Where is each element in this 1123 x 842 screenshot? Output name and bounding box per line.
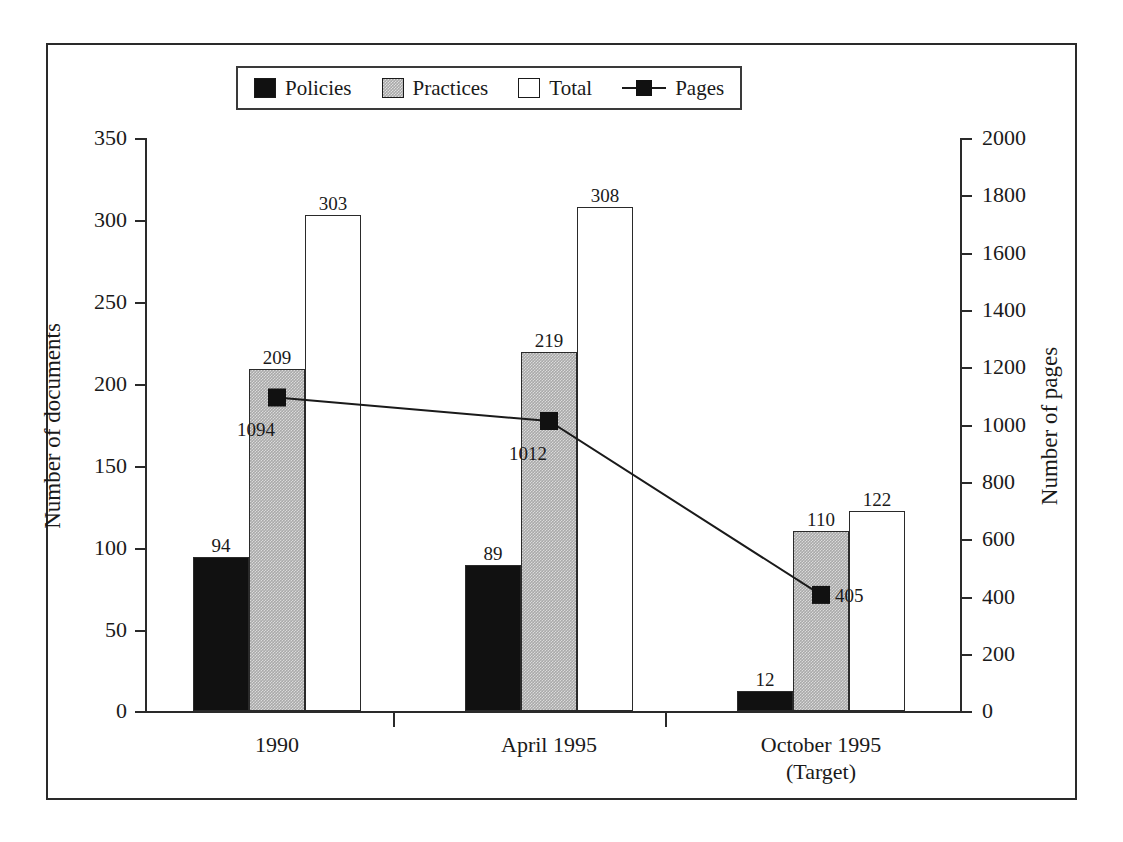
- right-tick-label-1400: 1400: [982, 299, 1026, 321]
- right-tick-0: [960, 711, 972, 713]
- right-tick-label-1000: 1000: [982, 414, 1026, 436]
- left-axis-line: [145, 138, 147, 713]
- right-tick-label-1800: 1800: [982, 184, 1026, 206]
- x-tick-divider-1: [393, 713, 395, 727]
- plot-area: 350 300 250 200 150 100 50 0 2000 1800 1…: [145, 138, 962, 713]
- left-tick-200: [135, 384, 147, 386]
- left-tick-150: [135, 466, 147, 468]
- left-tick-label-250: 250: [94, 291, 127, 313]
- right-tick-1800: [960, 195, 972, 197]
- left-tick-label-50: 50: [105, 619, 127, 641]
- bar-policies-october-1995: [737, 691, 793, 711]
- chart-figure: Policies Practices Total Pages 350 300 2…: [0, 0, 1123, 842]
- left-tick-250: [135, 302, 147, 304]
- policies-swatch-icon: [254, 78, 276, 98]
- bar-practices-october-1995: [793, 531, 849, 711]
- right-tick-2000: [960, 138, 972, 140]
- right-tick-label-1600: 1600: [982, 242, 1026, 264]
- x-category-october-1995: October 1995 (Target): [761, 732, 881, 786]
- legend-item-total: Total: [518, 78, 592, 99]
- pages-label-april-1995: 1012: [509, 444, 547, 463]
- left-tick-label-200: 200: [94, 373, 127, 395]
- right-tick-1600: [960, 253, 972, 255]
- right-tick-1400: [960, 310, 972, 312]
- left-tick-50: [135, 630, 147, 632]
- legend-item-policies: Policies: [254, 78, 352, 99]
- right-tick-label-400: 400: [982, 586, 1015, 608]
- left-tick-0: [135, 711, 147, 713]
- pages-line-marker-icon: [622, 78, 666, 98]
- legend-item-practices: Practices: [382, 78, 489, 99]
- practices-swatch-icon: [382, 78, 404, 98]
- bar-total-october-1995: [849, 511, 905, 711]
- right-tick-label-0: 0: [982, 700, 993, 722]
- x-category-april-1995: April 1995: [501, 732, 597, 759]
- x-axis-line: [145, 711, 962, 713]
- x-tick-divider-2: [665, 713, 667, 727]
- x-category-sublabel-october-1995: (Target): [761, 759, 881, 786]
- bar-total-1990: [305, 215, 361, 711]
- right-tick-label-2000: 2000: [982, 127, 1026, 149]
- right-tick-1000: [960, 425, 972, 427]
- legend-label-total: Total: [549, 78, 592, 99]
- bar-policies-april-1995: [465, 565, 521, 711]
- legend-label-policies: Policies: [285, 78, 352, 99]
- bar-label-practices-april-1995: 219: [535, 331, 564, 350]
- right-axis-title: Number of pages: [1037, 346, 1063, 504]
- bar-label-total-1990: 303: [319, 194, 348, 213]
- right-tick-label-200: 200: [982, 643, 1015, 665]
- x-category-label-october-1995: October 1995: [761, 732, 881, 757]
- right-tick-label-800: 800: [982, 471, 1015, 493]
- right-tick-800: [960, 482, 972, 484]
- x-category-label-april-1995: April 1995: [501, 732, 597, 757]
- right-tick-1200: [960, 367, 972, 369]
- bar-total-april-1995: [577, 207, 633, 711]
- left-tick-label-350: 350: [94, 127, 127, 149]
- right-tick-label-600: 600: [982, 528, 1015, 550]
- bar-label-policies-1990: 94: [212, 536, 231, 555]
- left-tick-label-300: 300: [94, 209, 127, 231]
- left-tick-label-100: 100: [94, 537, 127, 559]
- legend-label-practices: Practices: [413, 78, 489, 99]
- bar-label-total-october-1995: 122: [863, 490, 892, 509]
- pages-label-october-1995: 405: [835, 586, 864, 605]
- left-tick-350: [135, 138, 147, 140]
- legend-label-pages: Pages: [675, 78, 724, 99]
- bar-practices-april-1995: [521, 352, 577, 711]
- right-tick-600: [960, 539, 972, 541]
- left-tick-300: [135, 220, 147, 222]
- total-swatch-icon: [518, 78, 540, 98]
- left-axis-title: Number of documents: [40, 323, 66, 529]
- left-tick-label-0: 0: [116, 700, 127, 722]
- bar-policies-1990: [193, 557, 249, 711]
- left-tick-100: [135, 548, 147, 550]
- right-tick-label-1200: 1200: [982, 356, 1026, 378]
- right-tick-400: [960, 597, 972, 599]
- pages-label-1990: 1094: [237, 420, 275, 439]
- x-category-label-1990: 1990: [255, 732, 299, 757]
- bar-label-practices-1990: 209: [263, 348, 292, 367]
- x-category-1990: 1990: [255, 732, 299, 759]
- bar-label-policies-april-1995: 89: [484, 544, 503, 563]
- bar-label-total-april-1995: 308: [591, 186, 620, 205]
- left-tick-label-150: 150: [94, 455, 127, 477]
- chart-legend: Policies Practices Total Pages: [236, 66, 742, 110]
- bar-label-policies-october-1995: 12: [756, 670, 775, 689]
- legend-item-pages: Pages: [622, 78, 724, 99]
- bar-label-practices-october-1995: 110: [807, 510, 835, 529]
- right-tick-200: [960, 654, 972, 656]
